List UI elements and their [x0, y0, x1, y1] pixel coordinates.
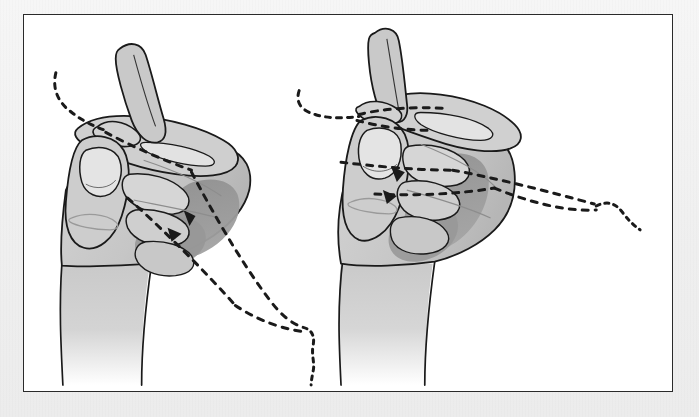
right-string-in [298, 91, 359, 118]
left-string-out-lower [235, 305, 301, 331]
left-hand-wrist [61, 262, 150, 385]
left-hand-thumbnail [80, 148, 121, 197]
right-hand-wrist [339, 260, 433, 385]
right-hand-figure [298, 29, 640, 385]
left-hand-figure [55, 44, 314, 385]
right-string-tail [596, 203, 640, 230]
left-string-tail [303, 327, 314, 385]
illustration-canvas [24, 15, 672, 391]
illustration-frame [23, 14, 673, 392]
